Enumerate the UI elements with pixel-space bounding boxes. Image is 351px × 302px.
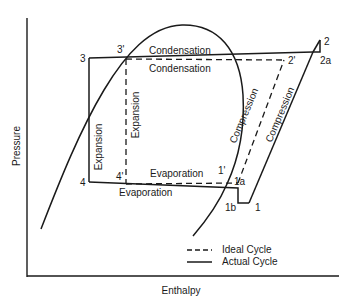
condensation-ideal-label: Condensation [149, 63, 211, 74]
x-axis-label: Enthalpy [162, 285, 201, 296]
legend-ideal-label: Ideal Cycle [222, 244, 272, 255]
evaporation-actual-label: Evaporation [119, 187, 172, 198]
legend-actual-label: Actual Cycle [222, 256, 278, 267]
point-4-prime-label: 4' [116, 171, 124, 182]
point-2-label: 2 [324, 36, 330, 47]
legend: Ideal Cycle Actual Cycle [187, 244, 278, 267]
point-1a-label: 1a [234, 176, 246, 187]
ideal-cycle [126, 59, 284, 184]
point-2-prime-label: 2' [288, 55, 296, 66]
y-axis-label: Pressure [11, 126, 22, 166]
point-1-label: 1 [255, 202, 261, 213]
point-4-label: 4 [80, 177, 86, 188]
point-1-prime-label: 1' [218, 165, 226, 176]
point-3-label: 3 [80, 53, 86, 64]
point-2a-label: 2a [320, 55, 332, 66]
point-1b-label: 1b [225, 202, 237, 213]
evaporation-ideal-label: Evaporation [150, 168, 203, 179]
expansion-ideal-label: Expansion [130, 92, 141, 139]
condensation-actual-label: Condensation [149, 45, 211, 56]
point-3-prime-label: 3' [117, 44, 125, 55]
compression-ideal-label: Compression [227, 86, 260, 145]
expansion-actual-label: Expansion [93, 124, 104, 171]
ph-diagram: Pressure Enthalpy 3 3' 2 2a 2' 4 4' 1' 1… [0, 0, 351, 302]
compression-actual-label: Compression [263, 85, 296, 144]
